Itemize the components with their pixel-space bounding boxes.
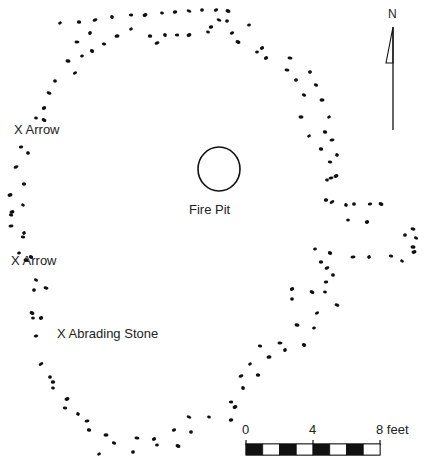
post-hole-dot [378,201,384,206]
post-hole-dot [21,231,26,236]
post-hole-dot [301,93,306,97]
post-hole-dot [111,441,116,445]
post-hole-dot [289,287,294,292]
post-hole-dot [324,266,330,271]
post-hole-dot [284,68,289,72]
scale-segment [263,444,280,455]
post-hole-dot [58,21,63,25]
post-hole-dot [80,54,84,58]
post-hole-dot [77,20,82,24]
post-hole-dot [263,55,269,60]
post-hole-dot [213,8,218,12]
post-hole-dot [319,260,323,264]
post-hole-dot [324,280,329,284]
fire-pit-circle [198,147,240,191]
post-hole-dot [307,134,312,138]
post-hole-dot [129,13,134,16]
post-hole-dot [329,200,335,205]
post-hole-dot [327,115,332,119]
post-hole-dot [413,236,418,241]
post-hole-dot [294,323,300,327]
post-hole-dot [186,415,192,420]
post-hole-dot [43,286,49,290]
post-hole-dot [334,153,339,158]
post-hole-dot [72,71,77,76]
post-hole-dot [8,224,13,227]
post-hole-dot [13,165,19,170]
post-hole-dots [7,8,418,456]
post-hole-dot [225,19,229,23]
post-hole-dot [103,433,108,437]
post-hole-dot [225,9,231,14]
post-hole-dot [343,203,348,208]
post-hole-dot [155,443,159,446]
post-hole-dot [7,193,13,198]
post-hole-dot [350,255,355,258]
scale-label-0: 0 [242,423,249,436]
north-label: N [388,7,397,21]
post-hole-dot [216,18,222,23]
post-hole-dot [134,436,139,440]
post-hole-dot [29,310,35,315]
post-hole-dot [129,27,134,31]
post-hole-dot [208,25,213,29]
post-hole-dot [19,145,24,149]
post-hole-dot [89,48,95,53]
post-hole-dot [277,341,282,344]
post-hole-dot [21,203,26,207]
post-hole-dot [334,303,340,308]
post-hole-dot [142,12,148,17]
post-hole-dot [46,91,52,96]
post-hole-dot [41,106,46,111]
post-hole-dot [186,9,192,14]
post-hole-dot [257,344,262,348]
post-hole-dot [92,18,98,22]
post-hole-dot [248,362,253,366]
post-hole-dot [97,452,102,456]
post-hole-dot [200,8,204,12]
post-hole-dot [114,34,119,38]
post-hole-dot [163,33,168,38]
post-hole-dot [172,10,177,14]
post-hole-dot [318,147,323,151]
post-hole-dot [309,289,315,295]
post-hole-dot [346,219,350,222]
post-hole-dot [410,245,415,249]
post-hole-dot [160,11,164,15]
scale-segment [347,444,364,455]
post-hole-dot [410,227,416,231]
post-hole-dot [63,406,68,409]
post-hole-dot [31,317,35,320]
post-hole-dot [51,386,56,390]
post-hole-dot [403,233,407,237]
post-hole-dot [65,59,71,63]
post-hole-dot [313,83,318,87]
post-hole-dot [74,40,79,43]
post-hole-dot [287,56,292,60]
post-hole-dot [241,386,246,391]
post-hole-dot [312,326,316,330]
scale-label-8-feet: 8 feet [376,423,409,436]
post-hole-dot [368,202,373,206]
post-hole-dot [259,45,265,50]
post-hole-dot [331,273,336,277]
post-hole-dot [148,34,153,38]
site-plan-drawing [0,0,427,467]
scale-label-4: 4 [309,423,316,436]
post-hole-dot [51,380,56,384]
post-hole-dot [48,375,52,379]
scale-segment [363,444,380,455]
post-hole-dot [283,348,288,353]
post-hole-dot [88,31,93,36]
post-hole-dot [324,198,329,202]
post-hole-dot [238,374,244,378]
post-hole-dot [34,334,39,338]
post-hole-dot [26,151,31,155]
post-hole-dot [255,50,259,53]
post-hole-dot [228,418,233,422]
post-hole-dot [298,115,303,119]
post-hole-dot [323,290,327,293]
post-hole-dot [256,373,261,377]
post-hole-dot [411,250,417,255]
scale-segment [246,444,263,455]
